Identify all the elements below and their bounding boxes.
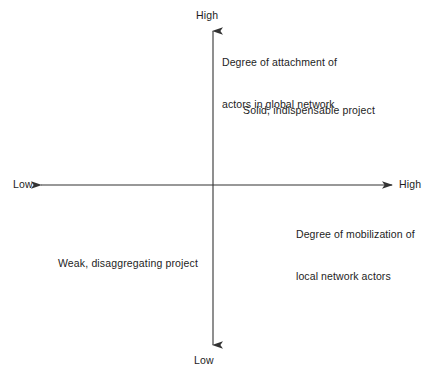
vertical-axis-bottom-label: Low (194, 354, 214, 368)
vertical-axis-description-line-1: Degree of attachment of (222, 55, 337, 69)
vertical-axis-top-label: High (196, 9, 218, 23)
quadrant-label-top-right: Solid, indispensable project (243, 104, 375, 118)
axes-graphic (0, 0, 431, 378)
horizontal-axis-description-line-2: local network actors (296, 269, 415, 283)
horizontal-axis-right-label: High (399, 178, 421, 192)
vertical-axis-description: Degree of attachment of actors in global… (222, 27, 337, 139)
horizontal-axis-description: Degree of mobilization of local network … (296, 199, 415, 311)
quadrant-diagram: High Low Low High Degree of attachment o… (0, 0, 431, 378)
horizontal-axis-left-label: Low (13, 178, 33, 192)
horizontal-axis-description-line-1: Degree of mobilization of (296, 227, 415, 241)
quadrant-label-bottom-left: Weak, disaggregating project (58, 257, 198, 271)
